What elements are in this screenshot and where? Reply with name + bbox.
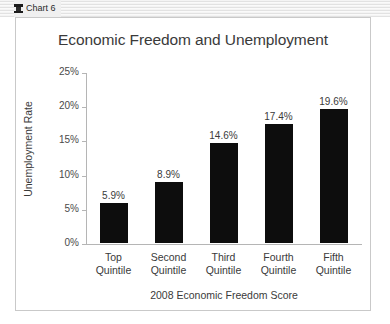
chart-title: Economic Freedom and Unemployment bbox=[16, 31, 370, 49]
y-tick-label: 15% bbox=[59, 134, 79, 145]
y-tick-mark bbox=[82, 210, 86, 211]
bar-value-label: 14.6% bbox=[194, 130, 254, 141]
y-axis-title: Unemployment Rate bbox=[22, 89, 34, 209]
bar-value-label: 19.6% bbox=[304, 96, 364, 107]
bar bbox=[210, 143, 238, 243]
window-title-group: Chart 6 bbox=[14, 0, 61, 17]
y-tick-label: 25% bbox=[59, 66, 79, 77]
y-tick-label: 20% bbox=[59, 100, 79, 111]
y-axis-line bbox=[86, 73, 87, 245]
bar bbox=[100, 203, 128, 243]
x-tick-label: FifthQuintile bbox=[302, 251, 366, 276]
y-tick-mark bbox=[82, 244, 86, 245]
y-tick-mark bbox=[82, 107, 86, 108]
plot-area: 0%5%10%15%20%25% 5.9%8.9%14.6%17.4%19.6%… bbox=[86, 73, 361, 244]
x-axis-title: 2008 Economic Freedom Score bbox=[76, 289, 372, 301]
chart-window: Chart 6 Economic Freedom and Unemploymen… bbox=[0, 0, 390, 324]
bar bbox=[320, 109, 348, 243]
window-titlebar: Chart 6 bbox=[0, 0, 390, 17]
bar-value-label: 8.9% bbox=[139, 169, 199, 180]
y-tick-mark bbox=[82, 73, 86, 74]
chart-container: Economic Freedom and Unemployment Unempl… bbox=[15, 17, 371, 311]
y-tick-mark bbox=[82, 176, 86, 177]
x-axis-line bbox=[86, 244, 362, 245]
bar bbox=[265, 124, 293, 243]
bar-value-label: 5.9% bbox=[84, 190, 144, 201]
y-tick-label: 0% bbox=[65, 237, 79, 248]
window-title: Chart 6 bbox=[26, 3, 56, 14]
bar-value-label: 17.4% bbox=[249, 111, 309, 122]
y-tick-mark bbox=[82, 141, 86, 142]
y-tick-label: 5% bbox=[65, 203, 79, 214]
pushpin-icon bbox=[14, 3, 23, 14]
bar bbox=[155, 182, 183, 243]
y-tick-label: 10% bbox=[59, 169, 79, 180]
